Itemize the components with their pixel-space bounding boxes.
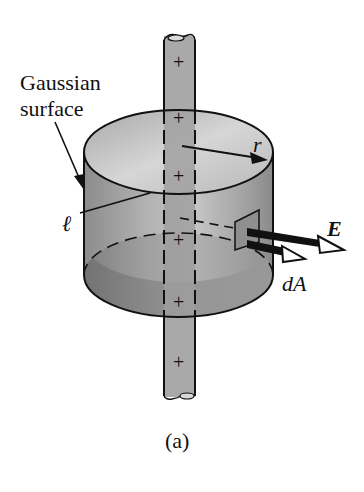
electric-field-label: E xyxy=(327,218,342,240)
rod-inside xyxy=(164,110,195,320)
charge-plus: + xyxy=(173,292,184,312)
charge-plus: + xyxy=(173,52,184,72)
area-element-label: dA xyxy=(282,273,306,295)
charge-plus: + xyxy=(173,352,184,372)
gaussian-label-line1: Gaussian xyxy=(20,70,101,96)
charge-plus: + xyxy=(173,230,184,250)
charge-plus: + xyxy=(173,108,184,128)
charge-plus: + xyxy=(173,166,184,186)
length-label: ℓ xyxy=(62,213,71,235)
gaussian-label-line2: surface xyxy=(20,96,101,122)
figure-caption: (a) xyxy=(165,430,189,452)
radius-label: r xyxy=(253,134,262,156)
gaussian-surface-label: Gaussian surface xyxy=(20,70,101,122)
gaussian-pointer-arrow xyxy=(55,122,84,190)
